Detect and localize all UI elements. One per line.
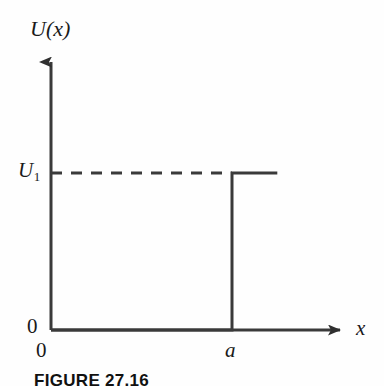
x-axis-label: x <box>356 318 365 339</box>
potential-step-figure: U(x) x U1 0 0 a FIGURE 27.16 <box>0 0 384 386</box>
y-tick-label-u1-base: U <box>18 158 33 182</box>
plot-area <box>0 0 384 386</box>
y-axis-origin-label: 0 <box>27 316 38 337</box>
x-tick-label-a: a <box>225 340 236 361</box>
figure-caption: FIGURE 27.16 <box>34 371 149 386</box>
y-tick-label-u1: U1 <box>18 160 40 183</box>
y-axis-label: U(x) <box>30 18 70 40</box>
x-axis-origin-label: 0 <box>36 340 47 361</box>
potential-step-curve <box>51 173 277 330</box>
y-tick-label-u1-subscript: 1 <box>34 169 41 184</box>
